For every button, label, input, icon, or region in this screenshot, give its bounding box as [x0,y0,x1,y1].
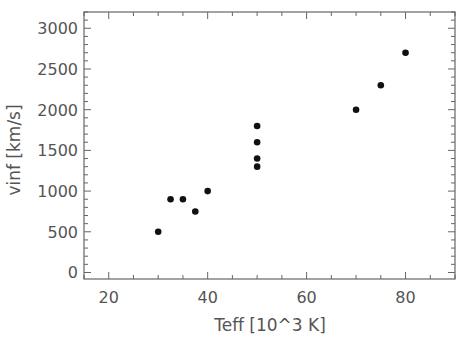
x-axis-label: Teff [10^3 K] [213,315,326,335]
data-point [254,155,261,162]
data-point [155,228,162,235]
y-tick-label: 2500 [37,60,78,79]
x-tick-label: 80 [395,288,415,307]
data-point [204,188,211,195]
y-tick-label: 500 [47,223,78,242]
data-point [254,123,261,130]
x-tick-label: 40 [197,288,217,307]
y-tick-label: 0 [68,263,78,282]
plot-area: 20406080050010001500200025003000 [37,12,455,307]
scatter-chart: 20406080050010001500200025003000 Teff [1… [0,0,462,340]
y-tick-label: 2000 [37,101,78,120]
y-tick-label: 1500 [37,141,78,160]
data-point [254,163,261,170]
y-axis-label: vinf [km/s] [4,104,24,195]
x-tick-label: 60 [296,288,316,307]
data-point [167,196,174,203]
data-point [180,196,187,203]
data-point [402,49,409,56]
data-point [192,208,199,215]
data-point [378,82,385,89]
data-point [353,106,360,113]
y-tick-label: 3000 [37,19,78,38]
y-tick-label: 1000 [37,182,78,201]
x-tick-label: 20 [99,288,119,307]
axes-frame [84,12,455,279]
data-point [254,139,261,146]
